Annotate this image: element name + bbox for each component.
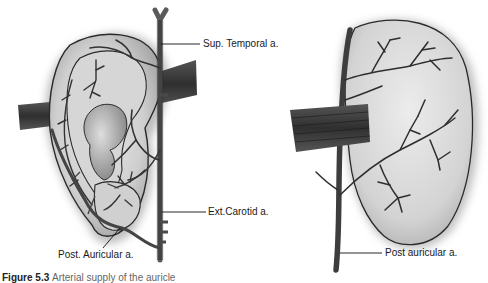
label-ext-carotid-artery: Ext.Carotid a. <box>208 207 269 217</box>
figure-caption-text: Arterial supply of the auricle <box>52 272 175 283</box>
label-post-auricular-artery-right: Post auricular a. <box>385 248 457 258</box>
figure-caption: Figure 5.3 Arterial supply of the auricl… <box>2 273 175 283</box>
label-post-auricular-artery-left: Post. Auricular a. <box>58 250 134 260</box>
figure-caption-prefix: Figure 5.3 <box>2 272 49 283</box>
right-ear-illustration <box>290 19 479 270</box>
label-sup-temporal-artery: Sup. Temporal a. <box>203 39 278 49</box>
left-muscle-lower <box>18 102 52 130</box>
left-ear-illustration <box>18 10 206 260</box>
